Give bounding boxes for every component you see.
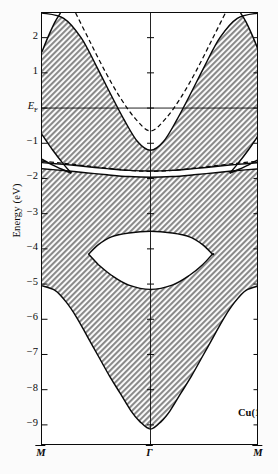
y-axis-tick-labels: 21EF−1−2−3−4−5−6−7−8−9 <box>8 0 38 474</box>
x-axis-tick-1: Γ <box>146 447 152 458</box>
x-axis-tick-0: M <box>36 447 45 458</box>
y-axis-tick-neg1: −1 <box>12 136 38 146</box>
y-axis-tick-neg9: −9 <box>12 418 38 428</box>
y-axis-tick-neg6: −6 <box>12 312 38 322</box>
y-axis-tick-neg7: −7 <box>12 347 38 357</box>
y-axis-tick-neg2: −2 <box>12 171 38 181</box>
y-axis-tick-neg8: −8 <box>12 383 38 393</box>
y-axis-tick-neg5: −5 <box>12 277 38 287</box>
y-axis-tick-neg3: −3 <box>12 207 38 217</box>
y-axis-tick-1: 1 <box>12 66 38 76</box>
y-axis-tick-2: 2 <box>12 31 38 41</box>
y-axis-tick-neg4: −4 <box>12 242 38 252</box>
band-structure-figure: Energy (eV) 21EF−1−2−3−4−5−6−7−8−9 Cu(11… <box>0 0 278 474</box>
projected-bulk-bands-shading <box>42 13 258 445</box>
x-axis-tick-2: M <box>253 447 262 458</box>
band-structure-plot <box>42 13 258 445</box>
y-axis-tick-fermi: EF <box>12 101 38 115</box>
plot-area: Cu(111) <box>41 12 258 445</box>
material-label: Cu(111) <box>238 407 258 418</box>
